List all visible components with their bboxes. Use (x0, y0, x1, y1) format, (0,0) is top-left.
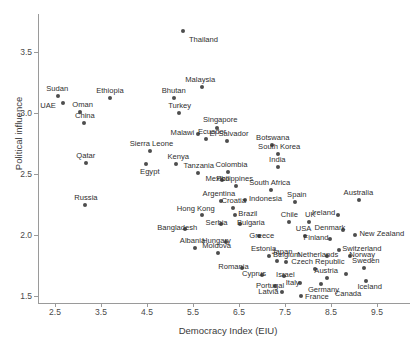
data-point-label: Egypt (140, 168, 159, 176)
data-point-label: Bhutan (162, 87, 186, 95)
data-point-label: Czech Republic (291, 258, 344, 266)
x-tick-label: 6.5 (219, 308, 259, 317)
data-point[interactable] (148, 149, 152, 153)
data-point-label: Thailand (189, 36, 218, 44)
data-point[interactable] (336, 213, 340, 217)
data-point-label: Malaysia (185, 76, 215, 84)
x-tick-label: 5.5 (173, 308, 213, 317)
data-point-label: South Africa (249, 179, 290, 187)
data-point[interactable] (325, 276, 329, 280)
data-point-label: Bulgaria (237, 219, 265, 227)
data-point[interactable] (144, 162, 148, 166)
data-point-label: Qatar (76, 152, 95, 160)
data-point-label: Austria (314, 267, 338, 275)
data-point[interactable] (353, 233, 357, 237)
data-point[interactable] (234, 184, 238, 188)
x-axis-title: Democracy Index (EIU) (0, 325, 418, 336)
data-point-label: Sweden (352, 257, 379, 265)
data-point[interactable] (181, 29, 185, 33)
x-axis-line (38, 303, 410, 304)
data-point[interactable] (287, 220, 291, 224)
data-point[interactable] (276, 165, 280, 169)
data-point-label: Singapore (203, 116, 238, 124)
data-point[interactable] (293, 200, 297, 204)
data-point-label: Tanzania (184, 162, 214, 170)
data-point-label: Greece (249, 232, 274, 240)
data-point-label: El Salvador (210, 130, 249, 138)
data-point[interactable] (172, 96, 176, 100)
data-point-label: Colombia (215, 161, 247, 169)
data-point[interactable] (84, 161, 88, 165)
x-tick-label: 8.5 (311, 308, 351, 317)
data-point[interactable] (216, 251, 220, 255)
data-point-label: Finland (304, 234, 329, 242)
data-point[interactable] (231, 206, 235, 210)
data-point-label: Latvia (258, 288, 278, 296)
data-point[interactable] (82, 121, 86, 125)
y-tick-mark (34, 296, 39, 297)
data-point[interactable] (200, 213, 204, 217)
data-point-label: Malawi (171, 129, 195, 137)
data-point[interactable] (284, 260, 288, 264)
y-axis-line (38, 14, 39, 303)
data-point[interactable] (299, 294, 303, 298)
data-point[interactable] (344, 272, 348, 276)
data-point-label: Indonesia (249, 195, 282, 203)
data-point[interactable] (108, 96, 112, 100)
data-point[interactable] (193, 246, 197, 250)
x-tick-label: 4.5 (127, 308, 167, 317)
data-point-label: New Zealand (359, 230, 404, 238)
y-tick-mark (34, 174, 39, 175)
data-point-label: France (305, 293, 329, 301)
x-tick-label: 3.5 (81, 308, 121, 317)
data-point-label: Denmark (315, 224, 346, 232)
data-point-label: Spain (287, 191, 306, 199)
y-tick-mark (34, 113, 39, 114)
data-point[interactable] (83, 203, 87, 207)
y-tick-mark (34, 235, 39, 236)
y-tick-label: 3.5 (0, 48, 32, 57)
data-point-label: Ethiopia (96, 87, 123, 95)
data-point-label: UK (305, 211, 316, 219)
data-point[interactable] (200, 85, 204, 89)
data-point[interactable] (61, 101, 65, 105)
data-point[interactable] (225, 139, 229, 143)
data-point-label: Croatia (221, 197, 245, 205)
data-point-label: Serbia (206, 219, 228, 227)
data-point[interactable] (357, 198, 361, 202)
data-point[interactable] (267, 254, 271, 258)
x-tick-label: 2.5 (35, 308, 75, 317)
data-point-label: Italy (286, 279, 300, 287)
data-point[interactable] (233, 213, 237, 217)
data-point[interactable] (269, 188, 273, 192)
data-point-label: UAE (40, 102, 56, 110)
data-point-label: China (75, 112, 95, 120)
data-point[interactable] (174, 162, 178, 166)
y-tick-label: 2.0 (0, 231, 32, 240)
data-point[interactable] (226, 170, 230, 174)
data-point-label: Cyprus (242, 270, 266, 278)
y-axis-title: Political influence (13, 64, 24, 204)
data-point[interactable] (196, 171, 200, 175)
data-point-label: India (269, 156, 285, 164)
data-point-label: Sudan (46, 85, 68, 93)
data-point-label: Philippines (216, 175, 253, 183)
data-point[interactable] (362, 266, 366, 270)
data-point-label: Chile (281, 211, 298, 219)
data-point-label: Moldova (202, 242, 231, 250)
data-point[interactable] (56, 94, 60, 98)
data-point-label: Australia (344, 189, 374, 197)
y-tick-label: 1.5 (0, 292, 32, 301)
data-point[interactable] (177, 111, 181, 115)
data-point[interactable] (204, 137, 208, 141)
data-point[interactable] (280, 290, 284, 294)
data-point-label: South Korea (258, 143, 300, 151)
x-tick-label: 9.5 (357, 308, 397, 317)
data-point-label: Oman (72, 101, 93, 109)
data-point-label: Sierra Leone (130, 140, 173, 148)
data-point[interactable] (307, 220, 311, 224)
plot-area: 1.52.02.53.03.5 2.53.54.55.56.57.58.59.5… (0, 0, 418, 350)
data-point-label: Bangladesh (157, 224, 197, 232)
data-point[interactable] (275, 259, 279, 263)
data-point-label: Russia (74, 194, 97, 202)
